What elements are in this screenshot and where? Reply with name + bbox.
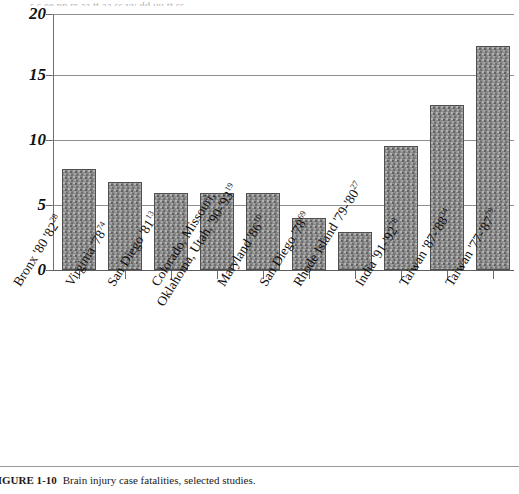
- bar-chart: 20 15 10 5 0 Bronx '80 '8228: [0, 0, 519, 290]
- x-axis-labels: Bronx '80 '8228 Virginia '7874 San Diego…: [0, 271, 519, 451]
- figure-caption: FIGURE 1-10Brain injury case fatalities,…: [0, 474, 519, 487]
- caption-divider: [0, 466, 519, 467]
- figure-caption-number: FIGURE 1-10: [0, 474, 57, 486]
- figure-caption-text: Brain injury case fatalities, selected s…: [63, 474, 256, 486]
